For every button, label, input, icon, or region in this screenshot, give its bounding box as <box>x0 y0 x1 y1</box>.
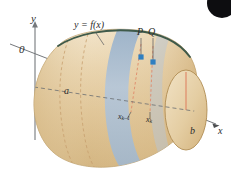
right-bound-label: b <box>190 126 195 136</box>
partition-label-xk: xk <box>146 116 152 125</box>
function-label: y = f(x) <box>74 20 104 30</box>
solid-of-revolution-figure <box>0 0 231 179</box>
point-P-marker <box>138 54 143 59</box>
point-Q-label: Q <box>148 27 155 37</box>
origin-label: 0 <box>19 44 25 55</box>
left-bound-label: a <box>64 86 69 96</box>
point-Q-marker <box>150 59 155 64</box>
x-axis-label: x <box>218 126 222 136</box>
y-axis-label: y <box>31 13 36 24</box>
partition-xk-1-subscript: k–1 <box>122 115 130 121</box>
point-P-label: P <box>137 27 143 37</box>
right-face-group <box>165 70 207 150</box>
partition-label-xk-1: xk–1 <box>118 113 130 122</box>
partition-xk-subscript: k <box>150 118 153 124</box>
